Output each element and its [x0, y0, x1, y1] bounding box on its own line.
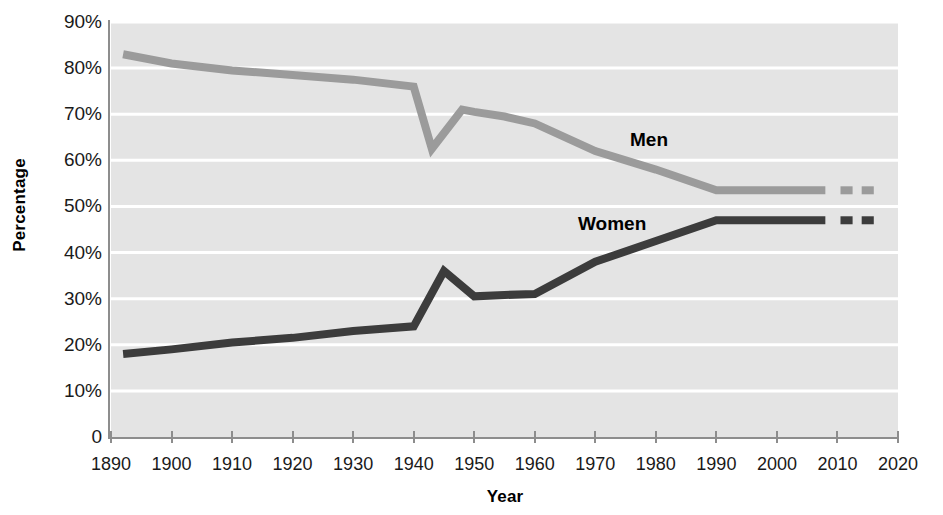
x-tick-label: 2000 — [742, 455, 812, 473]
x-tick-label: 1930 — [318, 455, 388, 473]
x-axis-title: Year — [110, 487, 900, 507]
x-axis-line — [108, 437, 899, 439]
x-tick-label: 1980 — [621, 455, 691, 473]
x-tick-label: 1950 — [439, 455, 509, 473]
series-line-men — [123, 54, 825, 190]
x-tick-mark — [897, 431, 899, 443]
x-tick-label: 1940 — [379, 455, 449, 473]
x-tick-mark — [292, 431, 294, 443]
y-tick-label: 70% — [2, 104, 102, 123]
x-tick-mark — [836, 431, 838, 443]
x-tick-label: 1960 — [500, 455, 570, 473]
y-tick-label: 60% — [2, 150, 102, 169]
series-label-men: Men — [630, 129, 668, 151]
series-label-women: Women — [578, 213, 646, 235]
x-tick-label: 1900 — [137, 455, 207, 473]
series-line-women — [123, 220, 825, 354]
x-tick-label: 2010 — [802, 455, 872, 473]
y-tick-label: 80% — [2, 58, 102, 77]
x-tick-mark — [171, 431, 173, 443]
y-tick-label: 40% — [2, 243, 102, 262]
x-tick-mark — [776, 431, 778, 443]
x-tick-label: 2020 — [863, 455, 933, 473]
plot-canvas — [111, 22, 898, 437]
x-tick-mark — [655, 431, 657, 443]
x-tick-mark — [413, 431, 415, 443]
x-tick-mark — [352, 431, 354, 443]
x-axis-tick-labels: 1890190019101920193019401950196019701980… — [0, 443, 943, 483]
y-tick-label: 30% — [2, 289, 102, 308]
x-tick-label: 1990 — [681, 455, 751, 473]
y-axis-line — [108, 20, 110, 439]
line-chart: Percentage 90%80%70%60%50%40%30%20%10%0 … — [0, 0, 943, 515]
x-tick-mark — [473, 431, 475, 443]
y-tick-label: 90% — [2, 12, 102, 31]
x-tick-label: 1910 — [197, 455, 267, 473]
y-tick-label: 20% — [2, 335, 102, 354]
y-tick-label: 10% — [2, 381, 102, 400]
y-axis-tick-labels: 90%80%70%60%50%40%30%20%10%0 — [0, 0, 102, 460]
x-tick-mark — [534, 431, 536, 443]
x-tick-mark — [231, 431, 233, 443]
x-tick-label: 1890 — [76, 455, 146, 473]
x-tick-mark — [715, 431, 717, 443]
x-tick-mark — [594, 431, 596, 443]
y-tick-label: 50% — [2, 196, 102, 215]
x-tick-label: 1970 — [560, 455, 630, 473]
plot-area — [111, 22, 898, 437]
x-tick-label: 1920 — [258, 455, 328, 473]
x-tick-mark — [110, 431, 112, 443]
